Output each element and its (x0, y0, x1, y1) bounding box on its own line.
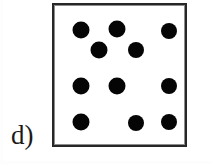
pattern-dot (73, 22, 90, 39)
pattern-dot (109, 21, 126, 38)
pattern-dot (73, 78, 90, 95)
panel-label: d) (11, 120, 34, 150)
pattern-dot (161, 114, 177, 130)
pattern-dot (161, 78, 177, 94)
scan-edge-left (0, 0, 3, 164)
pattern-dot (161, 23, 177, 39)
figure-panel: d) (0, 0, 211, 164)
pattern-dot (109, 78, 126, 95)
pattern-dot (91, 42, 108, 59)
pattern-dot (73, 114, 90, 131)
pattern-dot (128, 115, 144, 131)
pattern-dot (128, 42, 144, 58)
dot-pattern-box (52, 3, 187, 147)
scan-edge-bottom (0, 161, 211, 164)
